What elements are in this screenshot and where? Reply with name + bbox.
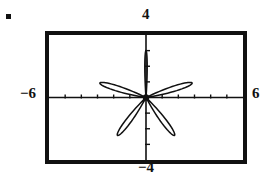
axis-label-ymax: 4 <box>142 7 150 22</box>
figure-root: −6 6 4 −4 <box>0 0 267 179</box>
polar-rose-plot <box>49 35 243 160</box>
axis-label-xmin: −6 <box>20 86 36 101</box>
axis-label-xmax: 6 <box>252 86 260 101</box>
calculator-screen-frame <box>45 31 247 164</box>
bullet-marker <box>6 14 11 19</box>
